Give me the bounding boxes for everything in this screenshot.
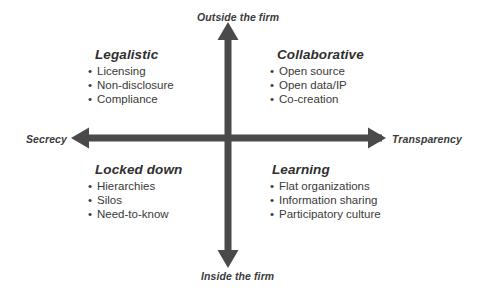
axis-label-transparency: Transparency	[392, 133, 462, 145]
list-item-label: Licensing	[97, 65, 146, 77]
quadrant-title: Legalistic	[95, 47, 174, 62]
axis-label-secrecy: Secrecy	[26, 133, 67, 145]
list-item: • Open data/IP	[270, 78, 364, 92]
list-item: • Licensing	[88, 64, 174, 78]
bullet-icon: •	[88, 207, 92, 221]
list-item-label: Hierarchies	[97, 180, 155, 192]
quadrant-item-list: • Open source • Open data/IP • Co-creati…	[270, 64, 364, 107]
axis-label-outside-the-firm: Outside the firm	[197, 11, 279, 23]
axes-group	[0, 0, 484, 292]
vertical-axis-shaft	[225, 32, 232, 260]
bullet-icon: •	[88, 64, 92, 78]
quadrant-item-list: • Hierarchies • Silos • Need-to-know	[88, 179, 182, 222]
quadrant-collaborative: Collaborative • Open source • Open data/…	[270, 47, 364, 107]
list-item: • Non-disclosure	[88, 78, 174, 92]
quadrant-title: Locked down	[95, 162, 182, 177]
horizontal-axis-shaft	[82, 135, 382, 142]
list-item-label: Non-disclosure	[97, 79, 174, 91]
quadrant-locked-down: Locked down • Hierarchies • Silos • Need…	[88, 162, 182, 222]
bullet-icon: •	[270, 207, 274, 221]
list-item: • Hierarchies	[88, 179, 182, 193]
list-item: • Need-to-know	[88, 207, 182, 221]
list-item-label: Participatory culture	[279, 208, 381, 220]
axis-arrow-right-icon	[368, 128, 386, 149]
axis-label-inside-the-firm: Inside the firm	[201, 270, 274, 282]
list-item: • Information sharing	[270, 193, 381, 207]
quadrant-learning: Learning • Flat organizations • Informat…	[270, 162, 381, 222]
list-item-label: Information sharing	[279, 194, 377, 206]
list-item: • Flat organizations	[270, 179, 381, 193]
bullet-icon: •	[270, 193, 274, 207]
quadrant-legalistic: Legalistic • Licensing • Non-disclosure …	[88, 47, 174, 107]
bullet-icon: •	[88, 78, 92, 92]
list-item-label: Silos	[97, 194, 122, 206]
bullet-icon: •	[88, 179, 92, 193]
list-item-label: Co-creation	[279, 93, 338, 105]
bullet-icon: •	[270, 64, 274, 78]
quadrant-title: Learning	[272, 162, 381, 177]
list-item: • Compliance	[88, 92, 174, 106]
axis-arrow-left-icon	[71, 128, 89, 149]
quadrant-item-list: • Flat organizations • Information shari…	[270, 179, 381, 222]
list-item-label: Open data/IP	[279, 79, 347, 91]
axis-arrow-up-icon	[218, 22, 239, 40]
quadrant-item-list: • Licensing • Non-disclosure • Complianc…	[88, 64, 174, 107]
list-item-label: Compliance	[97, 93, 158, 105]
list-item: • Co-creation	[270, 92, 364, 106]
diagram-canvas: Outside the firm Inside the firm Secrecy…	[0, 0, 484, 292]
list-item-label: Need-to-know	[97, 208, 169, 220]
bullet-icon: •	[88, 193, 92, 207]
list-item: • Silos	[88, 193, 182, 207]
list-item: • Participatory culture	[270, 207, 381, 221]
list-item-label: Open source	[279, 65, 345, 77]
bullet-icon: •	[270, 179, 274, 193]
list-item: • Open source	[270, 64, 364, 78]
list-item-label: Flat organizations	[279, 180, 370, 192]
quadrant-title: Collaborative	[277, 47, 364, 62]
bullet-icon: •	[270, 92, 274, 106]
bullet-icon: •	[270, 78, 274, 92]
bullet-icon: •	[88, 92, 92, 106]
axis-arrow-down-icon	[218, 250, 239, 268]
